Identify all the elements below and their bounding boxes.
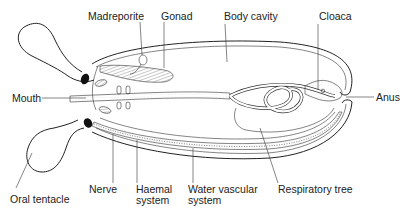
label-oral-tentacle: Oral tentacle bbox=[10, 193, 70, 205]
body-wall-bottom-outer bbox=[92, 102, 352, 159]
madreporite-leader bbox=[140, 22, 142, 55]
ventral-band bbox=[92, 112, 342, 150]
ampulla-2 bbox=[126, 86, 130, 94]
body-cavity-leader bbox=[225, 24, 227, 62]
label-body-cavity: Body cavity bbox=[224, 10, 278, 22]
cloaca bbox=[305, 80, 342, 101]
label-madreporite: Madreporite bbox=[88, 10, 144, 22]
label-cloaca: Cloaca bbox=[319, 10, 352, 22]
label-water-vascular-line2: system bbox=[188, 194, 222, 206]
respiratory-tree-leader bbox=[260, 128, 278, 183]
ampulla-3 bbox=[117, 102, 121, 109]
anterior-septum bbox=[92, 66, 98, 110]
lower-black-spot bbox=[82, 117, 94, 130]
upper-black-spot bbox=[79, 72, 90, 85]
label-haemal-line2: system bbox=[136, 194, 170, 206]
madreporite bbox=[139, 55, 147, 65]
gonad bbox=[100, 65, 173, 82]
upper-oral-tentacle bbox=[18, 23, 94, 81]
label-anus: Anus bbox=[376, 91, 400, 103]
holothurian-anatomy-diagram: Madreporite Gonad Body cavity Cloaca Mou… bbox=[0, 0, 414, 215]
label-gonad: Gonad bbox=[161, 10, 193, 22]
label-nerve: Nerve bbox=[89, 183, 117, 195]
anus-tip-bottom bbox=[342, 100, 352, 103]
ampulla-4 bbox=[126, 102, 130, 109]
polian-vesicle-lower bbox=[98, 106, 111, 115]
ampulla-1 bbox=[117, 86, 121, 94]
lower-oral-tentacle bbox=[27, 120, 84, 172]
label-respiratory-tree: Respiratory tree bbox=[278, 183, 353, 195]
polian-vesicle-upper bbox=[94, 79, 107, 88]
oral-tentacle-leader bbox=[16, 153, 32, 188]
oesophagus bbox=[70, 92, 230, 102]
label-mouth: Mouth bbox=[12, 92, 41, 104]
